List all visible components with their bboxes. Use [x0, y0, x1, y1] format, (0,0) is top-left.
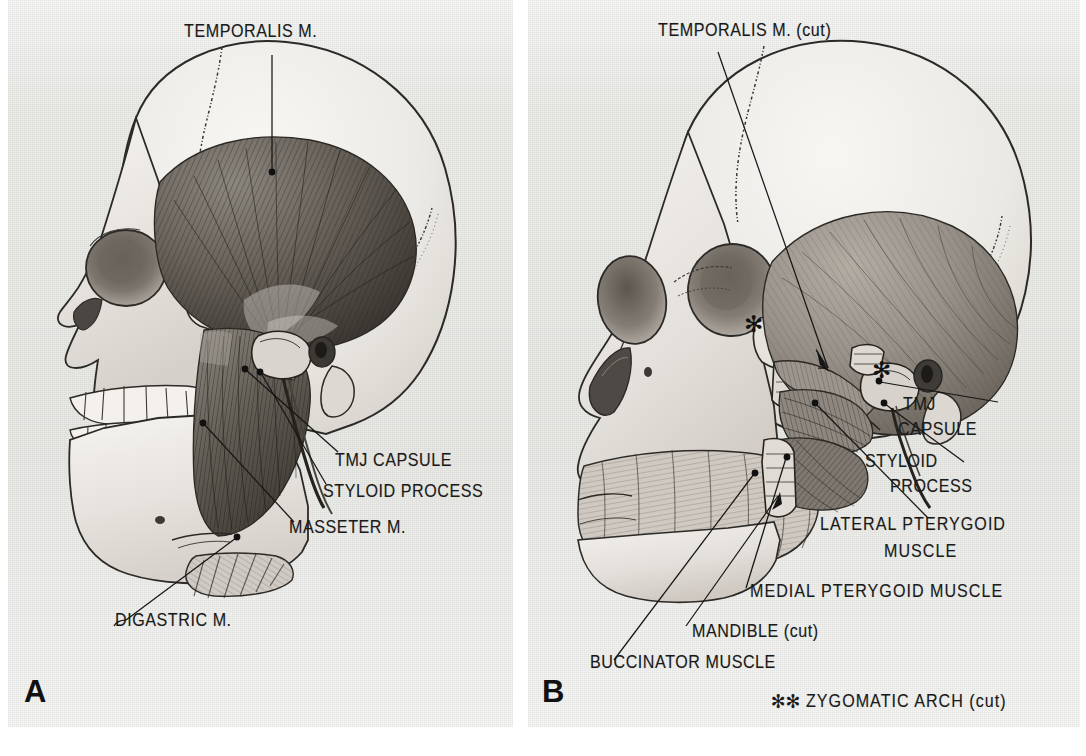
- label-styloid-b: STYLOID: [865, 453, 938, 471]
- panel-b-illustration: ✻ ✻: [528, 0, 1080, 727]
- panel-a-illustration: [8, 0, 513, 727]
- label-temporalis-cut-b: TEMPORALIS M. (cut): [658, 22, 831, 40]
- label-capsule-b: CAPSULE: [898, 421, 977, 439]
- label-buccinator-b: BUCCINATOR MUSCLE: [590, 654, 776, 672]
- label-tmj-b: TMJ: [903, 396, 936, 414]
- panel-a: TEMPORALIS M. TMJ CAPSULE STYLOID PROCES…: [8, 0, 513, 727]
- label-tmj-capsule-a: TMJ CAPSULE: [335, 452, 452, 470]
- label-zygomatic-arch-cut-b: ZYGOMATIC ARCH (cut): [806, 693, 1007, 711]
- figure-page: TEMPORALIS M. TMJ CAPSULE STYLOID PROCES…: [0, 0, 1086, 756]
- label-masseter-a: MASSETER M.: [289, 519, 406, 537]
- asterisk-maxilla-marker: ✻: [744, 311, 763, 337]
- label-process-b: PROCESS: [890, 478, 973, 496]
- label-lateral-pterygoid-muscle-b: MUSCLE: [884, 543, 957, 561]
- label-zygomatic-stars-b: ✻✻: [771, 692, 800, 711]
- label-lateral-pterygoid-b: LATERAL PTERYGOID: [820, 516, 1006, 534]
- panel-b-letter: B: [542, 676, 564, 707]
- panel-a-letter: A: [24, 676, 46, 707]
- label-mandible-cut-b: MANDIBLE (cut): [692, 623, 819, 641]
- label-temporalis-a: TEMPORALIS M.: [184, 23, 317, 41]
- label-styloid-process-a: STYLOID PROCESS: [323, 483, 483, 501]
- label-digastric-a: DIGASTRIC M.: [115, 612, 232, 630]
- panel-b: ✻ ✻: [528, 0, 1080, 727]
- label-medial-pterygoid-b: MEDIAL PTERYGOID MUSCLE: [750, 583, 1003, 601]
